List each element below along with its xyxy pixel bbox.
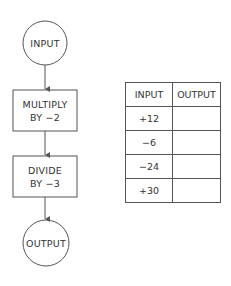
multiply-step-line2: BY −2 [30, 112, 60, 123]
table-row: −24 [126, 155, 221, 179]
output-cell [173, 107, 221, 131]
input-cell: +12 [126, 107, 173, 131]
output-cell [173, 179, 221, 203]
output-node: OUTPUT [23, 220, 69, 266]
multiply-step-box: MULTIPLY BY −2 [13, 90, 77, 131]
output-cell [173, 155, 221, 179]
multiply-step-line1: MULTIPLY [23, 99, 68, 110]
input-output-table: INPUT OUTPUT +12 −6 −24 +30 [125, 82, 221, 203]
header-output: OUTPUT [173, 83, 221, 107]
divide-step-box: DIVIDE BY −3 [13, 156, 77, 197]
divide-step-line2: BY −3 [30, 178, 60, 189]
input-node-label: INPUT [30, 38, 59, 49]
input-node: INPUT [23, 21, 67, 65]
input-cell: −24 [126, 155, 173, 179]
divide-step-line1: DIVIDE [28, 165, 62, 176]
table-header-row: INPUT OUTPUT [126, 83, 221, 107]
input-cell: −6 [126, 131, 173, 155]
table-row: +12 [126, 107, 221, 131]
table-row: +30 [126, 179, 221, 203]
header-input: INPUT [126, 83, 173, 107]
output-cell [173, 131, 221, 155]
input-cell: +30 [126, 179, 173, 203]
output-node-label: OUTPUT [26, 238, 66, 249]
table-row: −6 [126, 131, 221, 155]
